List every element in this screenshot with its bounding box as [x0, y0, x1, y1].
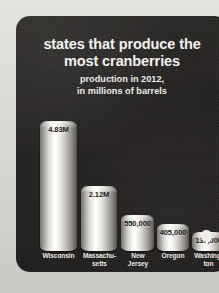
bar-chart-plot-area: 4.83M 2.12M 550,000 405,000	[32, 101, 219, 251]
chart-subtitle-line-2: in millions of barrels	[26, 86, 218, 98]
chart-panel: states that produce the most cranberries…	[16, 16, 219, 272]
cranberry-production-infographic: states that produce the most cranberries…	[0, 0, 219, 293]
axis-label-washington-line-2: ton	[187, 260, 219, 268]
axis-label-new-jersey-line-2: Jersey	[117, 260, 159, 268]
chart-subtitle-line-1: production in 2012,	[26, 74, 218, 86]
bar-slot-oregon: 405,000	[157, 224, 189, 251]
bar-value-oregon: 405,000	[160, 228, 187, 237]
axis-label-washington: Washing- ton	[187, 252, 219, 268]
bar-value-massachusetts: 2.12M	[89, 190, 110, 199]
chart-subtitle: production in 2012, in millions of barre…	[16, 74, 219, 97]
axis-label-washington-line-1: Washing-	[187, 252, 219, 260]
chart-title: states that produce the most cranberries	[16, 36, 219, 69]
bar-value-new-jersey: 550,000	[124, 219, 151, 228]
bar-oregon[interactable]: 405,000	[157, 224, 189, 251]
bar-wisconsin[interactable]: 4.83M	[40, 121, 77, 251]
x-axis-labels: Wisconsin Massachu- setts New Jersey Ore…	[32, 252, 219, 272]
bar-value-wisconsin: 4.83M	[48, 125, 69, 134]
bar-slot-wisconsin: 4.83M	[40, 121, 77, 251]
bar-slot-massachusetts: 2.12M	[81, 186, 117, 251]
chart-title-line-2: most cranberries	[26, 53, 218, 70]
bar-new-jersey[interactable]: 550,000	[121, 215, 154, 251]
bar-massachusetts[interactable]: 2.12M	[81, 186, 117, 251]
chart-title-line-1: states that produce the	[26, 36, 218, 53]
bar-slot-new-jersey: 550,000	[121, 215, 154, 251]
